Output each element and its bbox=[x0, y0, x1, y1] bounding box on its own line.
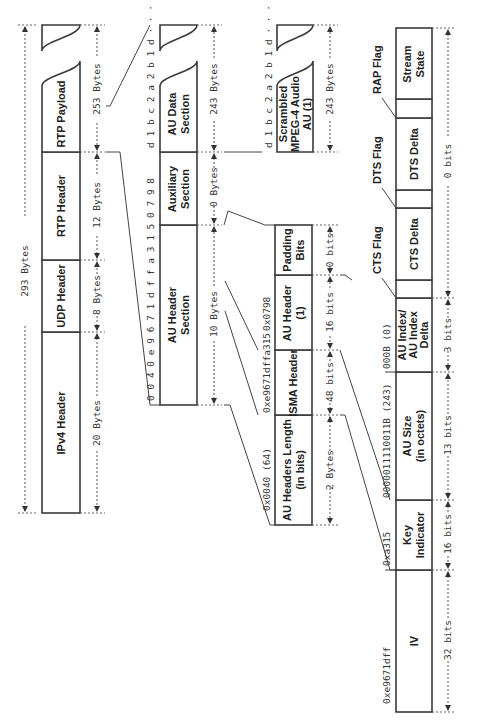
dts-flag-field bbox=[396, 190, 432, 208]
au-data-hex: d 1 b c 2 a 2 b 1 d · · · 1 2 bbox=[145, 0, 156, 148]
ipv4-size-label: 20 Bytes bbox=[91, 400, 102, 446]
au-header-value: 0x0798 bbox=[261, 296, 272, 331]
au-header-hex: 0 0 4 0 e 9 6 7 1 d f f a 3 1 5 0 7 9 8 bbox=[145, 178, 156, 401]
cts-flag-field bbox=[396, 280, 432, 298]
rap-flag-field bbox=[396, 99, 432, 118]
packet-row: IPv4 Header UDP Header RTP Header RTP Pa… bbox=[42, 25, 80, 513]
rtp-payload-label: RTP Payload bbox=[55, 80, 67, 147]
isma-header-label: ISMA Header bbox=[287, 349, 299, 417]
au-header-section-size: 10 Bytes bbox=[208, 291, 219, 337]
key-indicator-value: 0xa315 bbox=[381, 532, 392, 566]
auxiliary-section-label: AuxiliarySection bbox=[166, 165, 191, 212]
detail-size-dimensions: 32 bits 16 bits 13 bits 3 bits 0 bits bbox=[432, 28, 456, 712]
rtp-header-size-label: 12 Bytes bbox=[91, 182, 102, 228]
cts-flag-label: CTS Flag bbox=[371, 226, 383, 274]
au-size-value: 0000011110011B (243) bbox=[381, 384, 392, 498]
stream-state-label: StreamState bbox=[401, 45, 426, 83]
au-index-size: 3 bits bbox=[442, 318, 453, 352]
udp-header-label: UDP Header bbox=[55, 264, 67, 328]
tail-size: 0 bits bbox=[442, 144, 453, 178]
au-header-detail-row: 0x0040 (64) 0xe9671dffa315 0x0798 AU Hea… bbox=[261, 225, 312, 525]
total-size-dimension: 293 Bytes bbox=[18, 25, 38, 513]
au-header-1-size: 16 bits bbox=[324, 292, 335, 332]
scrambled-au-size: 243 Bytes bbox=[324, 63, 335, 114]
iv-value: 0xe9671dff bbox=[381, 647, 392, 704]
packet-size-dimensions: 20 Bytes 8 Bytes 12 Bytes 253 Bytes bbox=[80, 25, 105, 513]
isma-header-value: 0xe9671dffa315 bbox=[261, 333, 272, 413]
rtp-payload-size-label: 253 Bytes bbox=[91, 63, 102, 114]
au-headers-length-size: 2 Bytes bbox=[324, 450, 335, 490]
total-size-label: 293 Bytes bbox=[19, 245, 30, 296]
rtp-header-label: RTP Header bbox=[55, 174, 67, 237]
dts-flag-label: DTS Flag bbox=[371, 136, 383, 184]
au-size-label: AU Size(in octets) bbox=[401, 409, 426, 462]
udp-size-label: 8 Bytes bbox=[91, 275, 102, 315]
payload-row: 0 0 4 0 e 9 6 7 1 d f f a 3 1 5 0 7 9 8 … bbox=[145, 0, 197, 405]
key-indicator-size: 16 bits bbox=[442, 514, 453, 554]
iv-label: IV bbox=[408, 635, 420, 646]
padding-bits-size: 0 bits bbox=[324, 233, 335, 267]
au-data-section-size: 243 Bytes bbox=[208, 63, 219, 114]
isma-header-size: 48 bits bbox=[324, 362, 335, 402]
dts-delta-label: DTS Delta bbox=[408, 127, 420, 180]
packet-structure-diagram: 293 Bytes IPv4 Header UDP Header RTP Hea… bbox=[0, 0, 478, 726]
cts-delta-label: CTS Delta bbox=[408, 217, 420, 270]
au-index-value: 000B (0) bbox=[381, 323, 392, 369]
rap-flag-label: RAP Flag bbox=[371, 45, 383, 94]
au-size-size: 13 bits bbox=[442, 415, 453, 455]
scrambled-au-row: d 1 b c 2 a 2 b 1 d · · · 1 2 ScrambledM… bbox=[263, 0, 338, 152]
auxiliary-section-size: 0 Bytes bbox=[208, 167, 219, 207]
payload-size-dimensions: 10 Bytes 0 Bytes 243 Bytes bbox=[197, 25, 222, 405]
au-headers-length-value: 0x0040 (64) bbox=[261, 448, 272, 511]
detail-row: 0xe9671dff 0xa315 0000011110011B (243) 0… bbox=[371, 28, 432, 712]
scrambled-au-hex: d 1 b c 2 a 2 b 1 d · · · 1 2 bbox=[263, 0, 274, 148]
au-header-size-dimensions: 2 Bytes 48 bits 16 bits 0 bits bbox=[312, 225, 338, 525]
ipv4-header-label: IPv4 Header bbox=[55, 391, 67, 455]
iv-size: 32 bits bbox=[442, 620, 453, 660]
au-data-section-label: AU DataSection bbox=[166, 92, 191, 136]
